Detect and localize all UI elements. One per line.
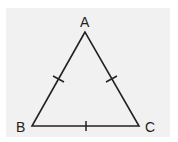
- triangle-diagram: A B C: [0, 0, 178, 142]
- vertex-label-a: A: [80, 14, 90, 30]
- vertex-label-b: B: [16, 119, 25, 135]
- tick-mark-ab: [53, 76, 64, 82]
- vertex-label-c: C: [145, 119, 155, 135]
- triangle-abc: [32, 32, 139, 126]
